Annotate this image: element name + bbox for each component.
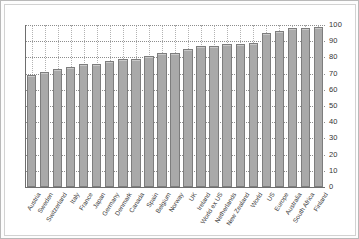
bar-cap-highlight — [237, 45, 244, 46]
bar-belgium — [157, 53, 166, 187]
bar-cap-highlight — [223, 45, 230, 46]
bar-cap-highlight — [119, 60, 126, 61]
bar-cap-highlight — [184, 50, 191, 51]
bar-ireland — [196, 46, 205, 187]
bar-finland — [314, 27, 323, 187]
y-tick-label-70: 70 — [329, 70, 338, 78]
bar-norway — [170, 53, 179, 187]
bar-cap-highlight — [276, 32, 283, 33]
y-tick-label-40: 40 — [329, 118, 338, 126]
y-tick-label-30: 30 — [329, 134, 338, 142]
bar-south-africa — [301, 28, 310, 187]
bar-uk — [183, 49, 192, 187]
bar-spain — [144, 56, 153, 187]
y-tick-label-50: 50 — [329, 102, 338, 110]
bar-cap-highlight — [54, 70, 61, 71]
x-tick-label: UK — [187, 191, 198, 202]
bar-world-ex-us — [209, 46, 218, 187]
bar-france — [79, 64, 88, 187]
bar-italy — [66, 67, 75, 187]
bar-cap-highlight — [93, 65, 100, 66]
bar-cap-highlight — [263, 34, 270, 35]
bar-cap-highlight — [315, 28, 322, 29]
bar-cap-highlight — [158, 54, 165, 55]
bar-cap-highlight — [106, 62, 113, 63]
bar-cap-highlight — [80, 65, 87, 66]
y-tick-label-10: 10 — [329, 167, 338, 175]
x-tick-label: US — [266, 191, 277, 202]
bar-canada — [131, 59, 140, 187]
y-tick-label-80: 80 — [329, 53, 338, 61]
bar-netherlands — [222, 44, 231, 187]
y-tick-label-60: 60 — [329, 86, 338, 94]
image-frame: AustriaSwedenSwitzerlandItalyFranceJapan… — [0, 0, 359, 239]
bar-sweden — [40, 72, 49, 187]
bar-japan — [92, 64, 101, 187]
bar-world — [249, 43, 258, 187]
y-tick-label-0: 0 — [329, 183, 333, 191]
bar-cap-highlight — [28, 76, 35, 77]
bar-cap-highlight — [132, 60, 139, 61]
bar-cap-highlight — [171, 54, 178, 55]
bar-cap-highlight — [197, 47, 204, 48]
bar-switzerland — [53, 69, 62, 187]
bar-cap-highlight — [210, 47, 217, 48]
bar-austria — [27, 75, 36, 187]
bar-cap-highlight — [67, 68, 74, 69]
bar-new-zealand — [236, 44, 245, 187]
bar-cap-highlight — [302, 29, 309, 30]
bar-cap-highlight — [250, 44, 257, 45]
bar-series — [25, 25, 325, 187]
bar-cap-highlight — [289, 29, 296, 30]
bar-denmark — [118, 59, 127, 187]
bar-us — [262, 33, 271, 187]
y-tick-label-100: 100 — [329, 21, 342, 29]
x-tick-label: Italy — [68, 191, 80, 205]
y-tick-label-90: 90 — [329, 37, 338, 45]
gridline-0 — [25, 187, 325, 188]
y-tick-label-20: 20 — [329, 151, 338, 159]
bar-germany — [105, 61, 114, 187]
bar-europe — [275, 31, 284, 187]
bar-cap-highlight — [41, 73, 48, 74]
bar-cap-highlight — [145, 57, 152, 58]
chart-panel: AustriaSwedenSwitzerlandItalyFranceJapan… — [4, 4, 356, 236]
bar-australia — [288, 28, 297, 187]
x-axis-labels: AustriaSwedenSwitzerlandItalyFranceJapan… — [25, 191, 325, 239]
